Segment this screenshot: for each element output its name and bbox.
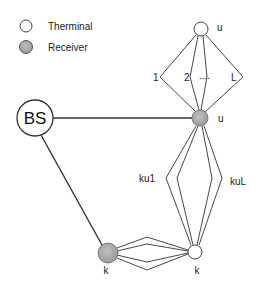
terminal-k-node: k — [188, 245, 202, 276]
bs-to-receiver-k-link — [41, 135, 102, 245]
path-label-ku1: ku1 — [139, 173, 156, 184]
path-label-kuL: kuL — [230, 176, 247, 187]
path-label-1: 1 — [153, 72, 159, 83]
terminal-node-icon — [20, 20, 32, 32]
path-label-ellipsis: .... — [199, 70, 210, 81]
legend-terminal-label: Therminal — [48, 21, 92, 32]
vertical-paths — [166, 126, 222, 245]
network-diagram: Therminal Receiver 1 2 .... L ku1 kuL BS — [0, 0, 261, 290]
receiver-k-node: k — [98, 243, 118, 276]
horizontal-paths — [117, 237, 188, 270]
terminal-u-label: u — [217, 22, 223, 33]
legend-receiver-label: Receiver — [48, 42, 88, 53]
receiver-k-label: k — [104, 265, 110, 276]
bs-node: BS — [17, 100, 53, 136]
receiver-u-node: u — [192, 110, 224, 126]
terminal-u-node: u — [194, 22, 223, 36]
path-label-L: L — [231, 72, 237, 83]
receiver-u-label: u — [218, 113, 224, 124]
receiver-node-icon — [20, 41, 33, 54]
terminal-k-label: k — [195, 265, 201, 276]
bs-label: BS — [24, 109, 47, 128]
path-label-2: 2 — [184, 72, 190, 83]
legend: Therminal Receiver — [20, 20, 93, 54]
